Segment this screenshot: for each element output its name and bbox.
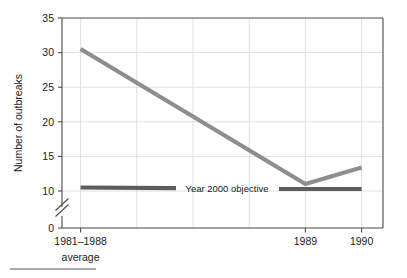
y-tick-label-20: 20 [42, 116, 54, 128]
outbreaks-line-chart: 35 30 25 20 15 10 0 Number of outbreaks … [0, 0, 407, 278]
y-tick-label-15: 15 [42, 150, 54, 162]
y-axis-title: Number of outbreaks [12, 74, 24, 172]
objective-label: Year 2000 objective [185, 183, 268, 194]
y-tick-label-30: 30 [42, 46, 54, 58]
y-tick-label-0: 0 [48, 222, 54, 234]
objective-line-left [81, 188, 176, 189]
x-tick-label-1989: 1989 [294, 235, 318, 247]
y-tick-label-25: 25 [42, 81, 54, 93]
x-tick-label-1981-1988: 1981–1988 [54, 235, 107, 247]
y-tick-label-10: 10 [42, 185, 54, 197]
x-tick-label-1990: 1990 [350, 235, 374, 247]
y-tick-label-35: 35 [42, 12, 54, 24]
chart-figure: 35 30 25 20 15 10 0 Number of outbreaks … [0, 0, 407, 278]
x-tick-sublabel-average: average [62, 251, 100, 263]
